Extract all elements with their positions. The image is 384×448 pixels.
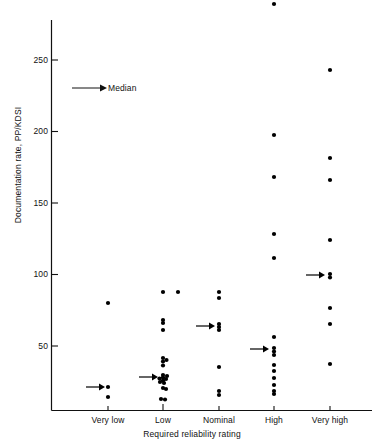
data-point [158, 380, 162, 384]
data-point [328, 178, 332, 182]
data-point [161, 321, 165, 325]
data-point [217, 389, 221, 393]
chart-figure: Documentation rate, PP/KDSI Required rel… [0, 0, 384, 448]
data-point [328, 68, 332, 72]
median-marker-low [139, 374, 158, 381]
data-point [217, 365, 221, 369]
data-point [163, 397, 167, 401]
x-axis-ticks [108, 404, 330, 411]
data-point [217, 296, 221, 300]
median-marker-very-low [86, 384, 105, 391]
data-point [161, 290, 165, 294]
legend-median-arrow-icon [72, 85, 107, 92]
data-point [162, 381, 166, 385]
series-high [272, 2, 276, 396]
data-point [159, 397, 163, 401]
data-point [161, 363, 165, 367]
data-point [272, 133, 276, 137]
data-point [328, 275, 332, 279]
data-point [161, 328, 165, 332]
data-point [217, 393, 221, 397]
data-point [106, 301, 110, 305]
y-axis-ticks [52, 60, 59, 346]
data-point [272, 2, 276, 6]
data-point [328, 362, 332, 366]
data-point [106, 385, 110, 389]
data-point [272, 353, 276, 357]
data-point [272, 335, 276, 339]
data-point [328, 156, 332, 160]
data-point [164, 387, 168, 391]
data-point [272, 383, 276, 387]
series-very-low [106, 301, 110, 399]
plot-canvas [0, 0, 384, 448]
median-marker-very-high [306, 272, 325, 279]
series-very-high [328, 68, 332, 366]
data-point [106, 395, 110, 399]
data-point [272, 363, 276, 367]
data-point [328, 306, 332, 310]
data-point [272, 392, 276, 396]
data-point [217, 328, 221, 332]
median-marker-high [250, 346, 269, 353]
data-point [217, 290, 221, 294]
data-point [161, 359, 165, 363]
data-point [272, 232, 276, 236]
median-marker-nominal [196, 323, 215, 330]
data-point [328, 238, 332, 242]
data-point [272, 256, 276, 260]
data-point [176, 290, 180, 294]
data-point [272, 376, 276, 380]
data-point [272, 175, 276, 179]
series-low [157, 290, 169, 402]
data-point [272, 369, 276, 373]
data-point [328, 322, 332, 326]
series-nominal [176, 290, 221, 397]
